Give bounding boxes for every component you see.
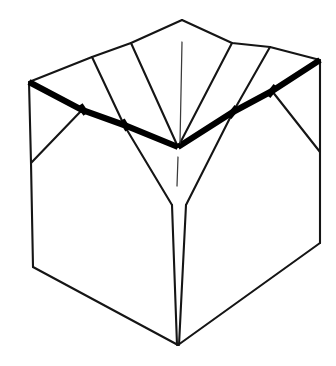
figure-root: Open cardboard box line drawing Black-an… [0, 0, 336, 366]
box-line-drawing: Open cardboard box line drawing Black-an… [0, 0, 336, 366]
